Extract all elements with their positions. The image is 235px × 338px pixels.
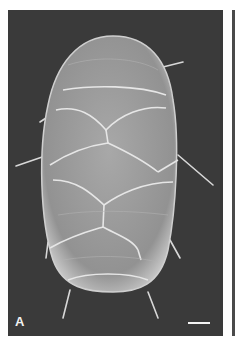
tardigrade-specimen (8, 10, 223, 336)
panel-label: A (15, 315, 24, 328)
micrograph-panel-b-edge (232, 10, 235, 336)
scale-bar (188, 322, 210, 324)
micrograph-panel-a: A (8, 10, 223, 336)
